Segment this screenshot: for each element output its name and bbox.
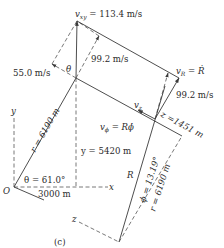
theta-small-label: θ [66, 64, 72, 74]
axis-x-label: x [109, 182, 114, 192]
v-xy-label: vxy = 113.4 m/s [75, 9, 142, 21]
origin-label: O [3, 186, 10, 196]
top-parallel-line [77, 21, 179, 78]
v-z-label: vz [134, 100, 143, 111]
theta-angle-label: θ = 61.0° [24, 175, 65, 185]
x-distance-label: 3000 m [38, 189, 71, 199]
v-phi-label: vϕ = Rϕ̇ [100, 122, 134, 134]
figure-caption: (c) [54, 237, 66, 247]
axis-y-label: y [10, 106, 16, 116]
v-theta-parallel [52, 21, 77, 64]
v-theta-label: 55.0 m/s [13, 68, 50, 78]
r-label: r = 6190 m [28, 106, 61, 154]
v-theta-component [52, 64, 76, 78]
v-r-component-label-right: 99.2 m/s [176, 90, 213, 100]
R-label: R [126, 170, 134, 180]
y-label: y = 5420 m [80, 146, 131, 156]
v-z-vector [138, 110, 155, 119]
v-r-component-label-top: 99.2 m/s [91, 54, 128, 64]
z-distance-label: z =1451 m [158, 108, 205, 139]
z-axis [79, 222, 119, 242]
velocity-component-diagram: vxy = 113.4 m/s 99.2 m/s 55.0 m/s θ vR =… [0, 0, 224, 248]
v-r-label: vR = Ṙ [176, 65, 205, 77]
v-xy-vector [76, 21, 77, 78]
axis-z-label: z [71, 214, 77, 224]
